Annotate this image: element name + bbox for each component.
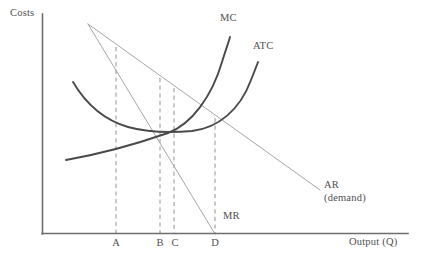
marginal-cost-label: MC bbox=[220, 12, 237, 25]
average-revenue-sublabel: (demand) bbox=[324, 192, 366, 205]
marginal-revenue-line bbox=[88, 24, 215, 234]
average-total-cost-curve bbox=[73, 62, 258, 132]
average-revenue-line bbox=[88, 24, 320, 190]
x-tick-a: A bbox=[108, 237, 124, 248]
average-revenue-label: AR bbox=[324, 179, 339, 192]
economics-diagram: Costs Output (Q) MC ATC AR (demand) MR A… bbox=[0, 0, 425, 260]
average-total-cost-label: ATC bbox=[253, 40, 273, 53]
x-tick-d: D bbox=[207, 237, 223, 248]
y-axis-label: Costs bbox=[10, 7, 34, 20]
marginal-cost-curve bbox=[66, 37, 230, 160]
marginal-revenue-label: MR bbox=[223, 210, 240, 223]
cost-curves-group bbox=[66, 37, 258, 160]
diagram-canvas bbox=[0, 0, 425, 260]
x-axis-label: Output (Q) bbox=[349, 236, 397, 249]
guide-lines-group bbox=[116, 47, 215, 234]
x-tick-c: C bbox=[167, 237, 183, 248]
x-tick-b: B bbox=[152, 237, 168, 248]
